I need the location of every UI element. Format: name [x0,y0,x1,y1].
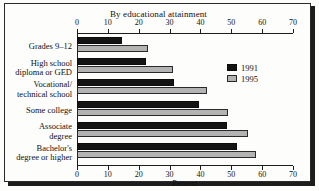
tick-label-top: 40 [189,18,211,27]
bar-1995 [77,151,256,158]
bar-1991 [77,101,199,108]
bar-1995 [77,109,228,116]
tick-mark-top [293,29,294,33]
category-label-line: Grades 9–12 [0,42,72,52]
tick-mark-top [139,29,140,33]
tick-mark-top [231,29,232,33]
tick-mark-top [262,29,263,33]
tick-mark-top [170,29,171,33]
tick-mark-top [108,29,109,33]
bar-1991 [77,79,174,86]
legend-item-1995: 1995 [227,73,258,84]
bar-1995 [77,66,173,73]
category-label: Grades 9–12 [0,42,72,52]
legend-label: 1991 [241,63,258,73]
category-label: High schooldiploma or GED [0,59,72,78]
bar-1991 [77,122,227,129]
tick-label-top: 20 [128,18,150,27]
black-swatch [227,64,237,71]
bar-1995 [77,130,248,137]
bar-1995 [77,45,148,52]
frame-shadow-right [311,6,315,186]
tick-label-top: 50 [220,18,242,27]
chart-frame: By educational attainment 01020304050607… [4,3,311,182]
category-label-line: technical school [0,90,72,100]
figure-container: By educational attainment 01020304050607… [0,0,319,191]
bar-1991 [77,37,122,44]
category-label-line: degree or higher [0,153,72,163]
category-label: Associatedegree [0,122,72,141]
tick-mark-top [77,29,78,33]
tick-label-top: 70 [282,18,304,27]
tick-label-top: 60 [251,18,273,27]
legend-label: 1995 [241,74,258,84]
category-label: Vocational/technical school [0,80,72,99]
chart-legend: 19911995 [227,62,258,84]
category-label-line: degree [0,132,72,142]
bar-1991 [77,58,146,65]
category-label: Bachelor'sdegree or higher [0,144,72,163]
bar-1995 [77,87,207,94]
category-label-line: diploma or GED [0,68,72,78]
category-label-line: Some college [0,106,72,116]
axis-top-line [77,33,293,34]
tick-label-top: 10 [97,18,119,27]
tick-label-top: 0 [66,18,88,27]
gray-swatch [227,75,237,82]
category-label: Some college [0,106,72,116]
bar-1991 [77,143,237,150]
legend-item-1991: 1991 [227,62,258,73]
tick-label-top: 30 [159,18,181,27]
tick-mark-top [200,29,201,33]
axis-bottom-line [77,165,293,166]
x-axis-label: Percent [77,178,293,188]
